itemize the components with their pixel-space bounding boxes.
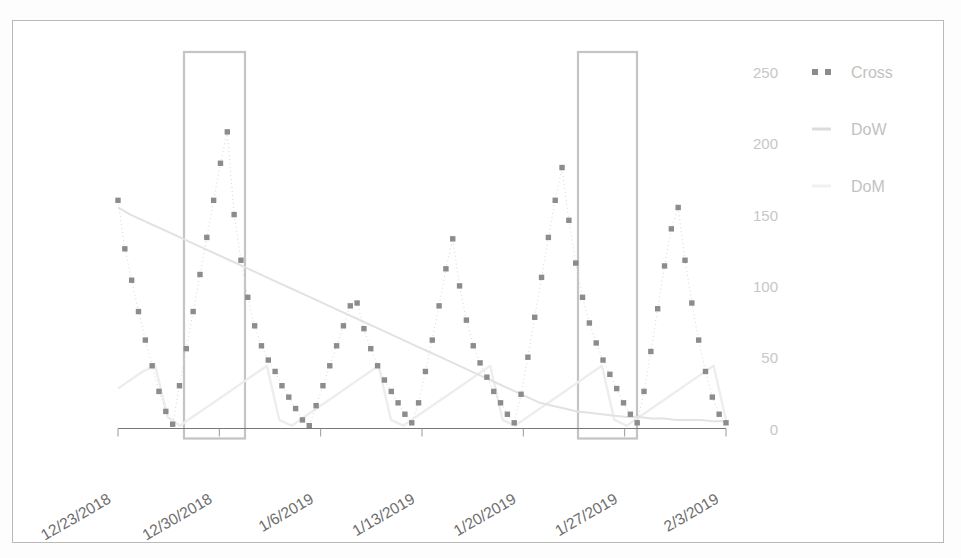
- data-point-marker: [655, 306, 660, 311]
- data-point-marker: [307, 423, 312, 428]
- data-point-marker: [163, 409, 168, 414]
- data-point-marker: [129, 278, 134, 283]
- data-point-marker: [334, 343, 339, 348]
- data-point-marker: [238, 258, 243, 263]
- x-axis-tick-label: 1/6/2019: [255, 490, 316, 535]
- data-point-marker: [300, 417, 305, 422]
- highlight-box-2: [578, 52, 637, 439]
- data-point-marker: [600, 357, 605, 362]
- data-point-marker: [266, 357, 271, 362]
- data-point-marker: [716, 412, 721, 417]
- data-point-marker: [156, 389, 161, 394]
- data-point-marker: [546, 235, 551, 240]
- data-point-marker: [122, 246, 127, 251]
- y-axis-tick-label: 200: [753, 135, 778, 152]
- data-point-marker: [149, 363, 154, 368]
- data-point-marker: [430, 337, 435, 342]
- x-axis-ticks: [118, 429, 726, 437]
- x-axis-tick-label: 1/13/2019: [349, 490, 417, 539]
- data-point-marker: [587, 320, 592, 325]
- data-point-marker: [471, 343, 476, 348]
- data-point-marker: [682, 258, 687, 263]
- data-point-marker: [416, 400, 421, 405]
- data-point-marker: [143, 337, 148, 342]
- data-point-marker: [204, 235, 209, 240]
- legend-label-dom: DoM: [851, 178, 885, 195]
- x-axis-tick-label: 12/30/2018: [139, 490, 215, 544]
- data-point-marker: [457, 283, 462, 288]
- data-point-marker: [361, 326, 366, 331]
- y-axis-tick-label: 50: [761, 349, 778, 366]
- y-axis-tick-label: 0: [770, 421, 778, 438]
- data-point-marker: [491, 389, 496, 394]
- data-point-marker: [634, 420, 639, 425]
- data-point-marker: [115, 198, 120, 203]
- data-point-marker: [395, 400, 400, 405]
- data-point-marker: [669, 226, 674, 231]
- data-point-marker: [505, 412, 510, 417]
- data-point-marker: [348, 303, 353, 308]
- data-point-marker: [628, 412, 633, 417]
- data-point-marker: [662, 263, 667, 268]
- legend-marker-cross: [812, 69, 818, 75]
- data-point-marker: [641, 389, 646, 394]
- legend-label-dow: DoW: [851, 121, 887, 138]
- data-point-marker: [696, 337, 701, 342]
- data-point-marker: [190, 309, 195, 314]
- x-axis-tick-label: 12/23/2018: [38, 490, 114, 544]
- data-point-marker: [327, 363, 332, 368]
- data-point-marker: [382, 377, 387, 382]
- data-point-marker: [211, 198, 216, 203]
- data-point-marker: [293, 406, 298, 411]
- data-point-marker: [423, 369, 428, 374]
- data-point-marker: [259, 343, 264, 348]
- data-point-marker: [498, 400, 503, 405]
- x-axis-tick-label: 1/27/2019: [552, 490, 620, 539]
- data-point-marker: [512, 420, 517, 425]
- chart-legend: CrossDoWDoM: [812, 64, 893, 195]
- data-point-marker: [559, 165, 564, 170]
- x-axis-tick-label: 2/3/2019: [661, 490, 722, 535]
- legend-label-cross: Cross: [851, 64, 893, 81]
- x-axis-tick-labels: 12/23/201812/30/20181/6/20191/13/20191/2…: [38, 490, 722, 544]
- chart-canvas: 050100150200250 12/23/201812/30/20181/6/…: [0, 0, 961, 558]
- data-point-marker: [368, 346, 373, 351]
- data-point-marker: [710, 394, 715, 399]
- data-point-marker: [518, 392, 523, 397]
- y-axis-tick-label: 100: [753, 278, 778, 295]
- y-axis-tick-label: 250: [753, 64, 778, 81]
- data-point-marker: [484, 374, 489, 379]
- data-point-marker: [532, 315, 537, 320]
- data-point-marker: [375, 363, 380, 368]
- data-point-marker: [252, 323, 257, 328]
- data-point-marker: [689, 300, 694, 305]
- data-point-marker: [648, 349, 653, 354]
- data-point-marker: [525, 355, 530, 360]
- x-axis-tick-label: 1/20/2019: [451, 490, 519, 539]
- data-point-marker: [703, 369, 708, 374]
- y-axis-tick-labels: 050100150200250: [753, 64, 778, 438]
- chart-figure: 050100150200250 12/23/201812/30/20181/6/…: [0, 0, 961, 558]
- data-point-marker: [225, 129, 230, 134]
- data-point-marker: [197, 272, 202, 277]
- data-point-marker: [621, 400, 626, 405]
- data-point-marker: [607, 372, 612, 377]
- y-axis-tick-label: 150: [753, 207, 778, 224]
- series-connector-cross: [118, 132, 726, 426]
- data-point-marker: [553, 198, 558, 203]
- data-point-marker: [614, 386, 619, 391]
- data-point-marker: [675, 205, 680, 210]
- data-point-marker: [313, 403, 318, 408]
- data-point-marker: [594, 340, 599, 345]
- data-point-marker: [354, 300, 359, 305]
- data-point-marker: [389, 389, 394, 394]
- data-point-marker: [320, 383, 325, 388]
- legend-marker-cross: [825, 69, 831, 75]
- data-point-marker: [436, 303, 441, 308]
- data-point-marker: [136, 309, 141, 314]
- data-point-marker: [402, 412, 407, 417]
- data-point-marker: [443, 266, 448, 271]
- data-point-marker: [279, 383, 284, 388]
- data-point-marker: [450, 236, 455, 241]
- data-point-marker: [566, 218, 571, 223]
